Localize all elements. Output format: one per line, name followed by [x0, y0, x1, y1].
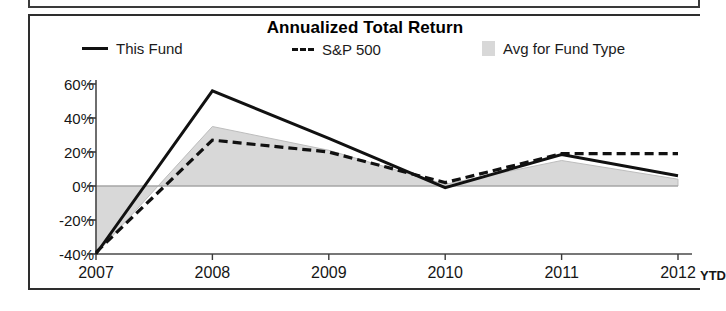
plot-area — [30, 60, 702, 260]
solid-line-swatch-icon — [82, 47, 108, 50]
dashed-line-swatch-icon — [292, 48, 314, 51]
series-plot — [30, 60, 702, 260]
annualized-total-return-panel: Annualized Total Return This Fund S&P 50… — [28, 14, 700, 290]
legend-item-sp500[interactable]: S&P 500 — [292, 41, 381, 58]
legend-item-this-fund[interactable]: This Fund — [82, 40, 183, 57]
chart-title: Annualized Total Return — [30, 18, 700, 38]
legend-item-avg-fund-type[interactable]: Avg for Fund Type — [482, 40, 625, 57]
legend-label-sp500: S&P 500 — [322, 41, 381, 58]
x-axis-tick-label: 2007 — [78, 264, 114, 282]
x-axis-tick-label: 2012 — [660, 264, 696, 282]
x-axis-tick-label: 2009 — [311, 264, 347, 282]
chart-legend: This Fund S&P 500 Avg for Fund Type — [30, 40, 700, 62]
line-series-s-p-500 — [96, 140, 678, 252]
gray-area-swatch-icon — [482, 41, 495, 56]
x-axis-tick-label: 2011 — [544, 264, 578, 282]
x-axis-tick-label: 2008 — [195, 264, 231, 282]
x-axis-tick-labels: 200720082009201020112012YTD — [30, 264, 702, 290]
x-axis-ytd-label: YTD — [700, 268, 726, 283]
legend-label-this-fund: This Fund — [116, 40, 183, 57]
area-series-avg-for-fund-type — [96, 127, 678, 255]
legend-label-avg-fund-type: Avg for Fund Type — [503, 40, 625, 57]
x-axis-tick-label: 2010 — [427, 264, 463, 282]
preceding-panel-edge — [28, 0, 700, 8]
